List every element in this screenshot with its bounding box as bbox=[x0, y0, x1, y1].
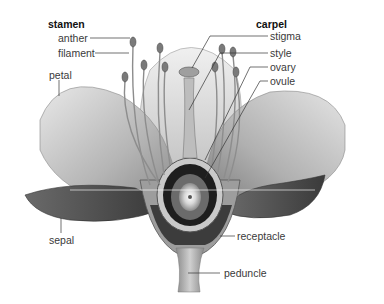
stigma-label: stigma bbox=[270, 30, 301, 42]
sepal-label: sepal bbox=[49, 234, 74, 246]
peduncle-stem bbox=[176, 248, 204, 292]
petal-label: petal bbox=[49, 69, 72, 81]
anther-label: anther bbox=[58, 32, 88, 44]
peduncle-label: peduncle bbox=[224, 267, 267, 279]
style-label: style bbox=[270, 47, 292, 59]
stigma-head bbox=[179, 67, 199, 77]
ovule-label: ovule bbox=[270, 75, 295, 87]
carpel-heading: carpel bbox=[256, 18, 287, 30]
stamen-heading: stamen bbox=[48, 18, 85, 30]
filament-label: filament bbox=[58, 47, 95, 59]
sepal-left bbox=[25, 185, 160, 221]
flower-illustration bbox=[0, 0, 384, 304]
ovary-label: ovary bbox=[270, 61, 296, 73]
receptacle-label: receptacle bbox=[237, 230, 285, 242]
